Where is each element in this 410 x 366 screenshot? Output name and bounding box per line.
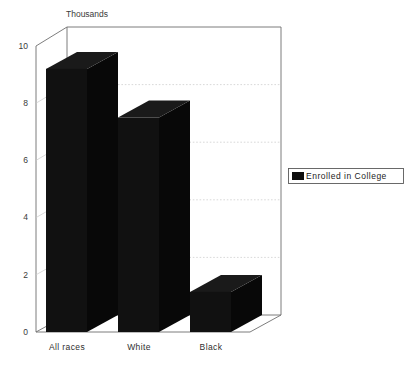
legend-label-enrolled-in-college: Enrolled in College — [306, 171, 387, 181]
y-tick-4: 4 — [23, 212, 28, 222]
bar-all-races-side — [87, 52, 118, 332]
category-label-white: White — [127, 342, 151, 352]
y-tick-8: 8 — [23, 98, 28, 108]
bar-chart-figure: 0 2 4 6 8 10 Thousands — [0, 0, 410, 366]
bar-white-side — [159, 101, 190, 333]
legend-swatch-enrolled-in-college — [292, 172, 304, 180]
category-label-black: Black — [200, 342, 223, 352]
bar-all-races-front — [46, 69, 87, 332]
y-axis-unit-label: Thousands — [66, 9, 108, 19]
y-axis-tick-labels: 0 2 4 6 8 10 — [19, 41, 29, 337]
bar-all-races — [46, 52, 118, 332]
x-axis-category-labels: All races White Black — [49, 342, 223, 352]
chart-legend[interactable]: Enrolled in College — [289, 169, 404, 184]
y-tick-2: 2 — [23, 270, 28, 280]
y-tick-6: 6 — [23, 155, 28, 165]
bar-white — [118, 101, 190, 333]
y-tick-10: 10 — [19, 41, 29, 51]
bar-white-front — [118, 118, 159, 333]
category-label-all-races: All races — [49, 342, 85, 352]
depth-edge-top-left — [36, 27, 67, 46]
y-tick-0: 0 — [23, 327, 28, 337]
bar-black — [190, 275, 262, 332]
chart-canvas: 0 2 4 6 8 10 Thousands — [0, 0, 410, 366]
bar-black-front — [190, 292, 231, 332]
